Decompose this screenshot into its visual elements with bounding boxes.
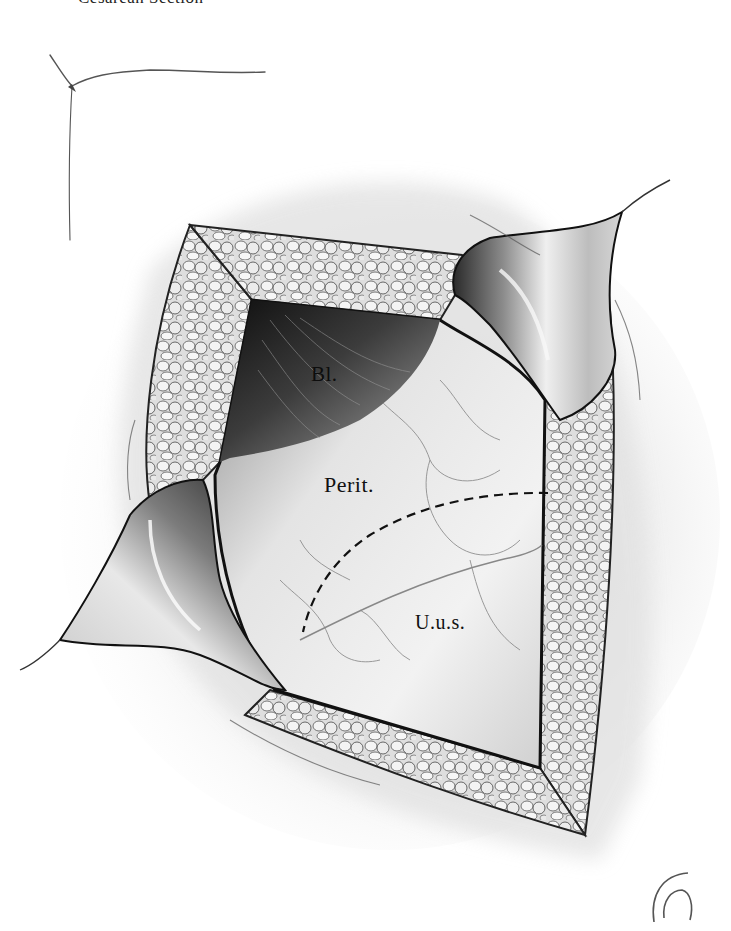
surgical-illustration	[0, 0, 731, 931]
skin-mark-lower-right	[653, 873, 691, 922]
label-bladder: Bl.	[311, 362, 338, 387]
skin-fold-upper-left	[50, 55, 265, 240]
label-lower-uterine-segment: U.u.s.	[415, 611, 465, 634]
label-peritoneum: Perit.	[324, 472, 374, 498]
